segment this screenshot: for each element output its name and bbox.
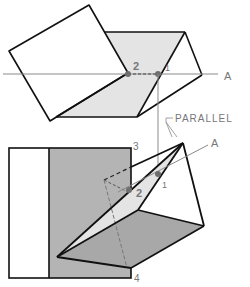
bottom-point-1-label: 1 [162, 180, 167, 190]
bottom-point-2 [126, 187, 132, 193]
top-axis-label: A [224, 70, 232, 82]
parallel-label: PARALLEL [175, 113, 233, 124]
bottom-point-2-label: 2 [136, 187, 142, 199]
bottom-white-panel [9, 148, 49, 278]
bottom-axis-label: A [211, 137, 219, 149]
parallel-leader [166, 118, 173, 122]
diagram-canvas: A 2 1 PARALLEL [0, 0, 250, 287]
bottom-view: A 2 1 3 4 [9, 137, 219, 284]
top-point-1-label: 1 [165, 63, 170, 73]
point-4-label: 4 [134, 273, 140, 284]
top-point-2 [125, 71, 131, 77]
top-prism-edge-right [185, 32, 202, 75]
point-3-label: 3 [133, 141, 139, 152]
parallel-annotation: PARALLEL [166, 113, 233, 137]
top-point-2-label: 2 [133, 60, 139, 72]
bottom-point-1 [155, 171, 161, 177]
